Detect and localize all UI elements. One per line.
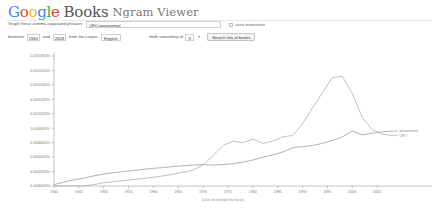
x-tick-label: 1980 [249,190,257,194]
x-tick-label: 1965 [174,190,182,194]
y-tick-label: 0.0001600% [30,69,50,73]
end-year-input[interactable]: 2008 [53,34,66,41]
x-tick-label: 1950 [100,190,108,194]
series-line-paranormal[interactable] [54,131,392,184]
x-axis-ticks: 1940194519501955196019651970197519801985… [50,186,381,194]
phrases-row: Graph these comma-separated phrases: UFO… [8,21,265,28]
y-tick-label: 0.0000400% [30,155,50,159]
x-tick-label: 1940 [50,190,58,194]
x-tick-label: 2005 [373,190,381,194]
corpus-select[interactable]: English [101,34,121,41]
x-tick-label: 1960 [149,190,157,194]
y-tick-label: 0.0000800% [30,127,50,131]
x-tick-label: 1995 [323,190,331,194]
ngram-viewer-page: Google Books Ngram Viewer Graph these co… [0,0,438,217]
and-label: and [43,35,50,39]
x-tick-label: 1975 [224,190,232,194]
masthead: Google Books Ngram Viewer [8,3,199,21]
phrases-label: Graph these comma-separated phrases: [8,22,83,26]
x-tick-label: 1985 [274,190,282,194]
x-tick-label: 1945 [75,190,83,194]
chart-caption: (click on line/label for focus) [202,198,244,202]
x-tick-label: 1955 [125,190,133,194]
y-tick-label: 0.0000200% [30,170,50,174]
logo-letter-G: G [8,3,20,21]
search-button[interactable]: Search lots of books [207,33,255,41]
options-row: between 1940 and 2008 from the corpus En… [8,33,255,41]
y-tick-label: 0.0001000% [30,112,50,116]
page-title: Ngram Viewer [112,5,198,19]
series-label-paranormal[interactable]: paranormal [400,129,418,133]
series-label-ufo[interactable]: UFO [400,134,408,138]
smoothing-select[interactable]: 3 [185,34,194,41]
google-logo[interactable]: Google [8,3,60,21]
start-year-input[interactable]: 1940 [27,34,40,41]
case-insensitive-checkbox[interactable] [229,23,233,27]
x-tick-label: 1970 [199,190,207,194]
smoothing-label: with smoothing of [151,35,184,39]
corpus-label: from the corpus [69,35,98,39]
y-tick-label: 0.0001400% [30,83,50,87]
series-curves[interactable] [54,76,392,186]
chevron-down-icon-smoothing: ▾ [198,35,200,39]
x-tick-label: 1990 [299,190,307,194]
ngram-chart[interactable]: 0.0001800%0.0001600%0.0001400%0.0001200%… [0,46,438,217]
y-tick-label: 0.0000600% [30,141,50,145]
chart-svg[interactable]: 0.0001800%0.0001600%0.0001400%0.0001200%… [0,46,438,217]
x-tick-label: 2000 [348,190,356,194]
y-tick-label: 0.0001800% [30,54,50,58]
y-tick-label: 0.0000000% [30,184,50,188]
y-axis-ticks: 0.0001800%0.0001600%0.0001400%0.0001200%… [30,54,54,188]
logo-letter-e: e [51,3,60,21]
between-label: between [8,35,24,39]
series-line-ufo[interactable] [54,76,392,186]
case-insensitive-label[interactable]: case-insensitive [235,22,265,27]
logo-letter-o2: o [28,3,37,21]
y-tick-label: 0.0001200% [30,98,50,102]
series-labels[interactable]: UFOparanormal [392,129,418,137]
books-wordmark[interactable]: Books [64,3,109,21]
phrases-input[interactable]: UFO,paranormal [86,21,221,28]
